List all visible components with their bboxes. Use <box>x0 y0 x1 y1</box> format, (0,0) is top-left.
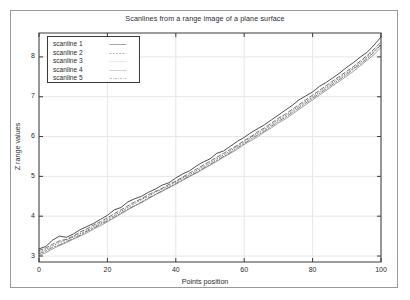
legend-item-5[interactable]: scanline 5 <box>48 74 139 83</box>
y-tick-label: 8 <box>24 52 35 59</box>
x-tick-label: 40 <box>161 266 191 273</box>
x-tick-label: 0 <box>24 266 54 273</box>
legend[interactable]: scanline 1scanline 2scanline 3scanline 4… <box>47 36 140 83</box>
legend-item-4[interactable]: scanline 4 <box>48 66 139 75</box>
legend-item-3[interactable]: scanline 3 <box>48 57 139 66</box>
chart-figure: Scanlines from a range image of a plane … <box>0 0 410 300</box>
x-tick-label: 80 <box>298 266 328 273</box>
x-tick-label: 20 <box>92 266 122 273</box>
y-tick-label: 3 <box>24 252 35 259</box>
y-tick-label: 7 <box>24 92 35 99</box>
x-tick-label: 100 <box>366 266 396 273</box>
legend-item-label: scanline 5 <box>53 74 83 81</box>
x-tick-label: 60 <box>229 266 259 273</box>
y-tick-label: 4 <box>24 212 35 219</box>
legend-item-label: scanline 3 <box>53 57 83 64</box>
y-axis-label: Z range values <box>13 102 22 192</box>
legend-item-2[interactable]: scanline 2 <box>48 49 139 58</box>
legend-line-sample <box>101 61 135 62</box>
legend-line-sample <box>101 78 135 79</box>
legend-item-1[interactable]: scanline 1 <box>48 40 139 49</box>
legend-line-sample <box>101 53 135 54</box>
legend-item-label: scanline 2 <box>53 49 83 56</box>
y-tick-label: 6 <box>24 132 35 139</box>
y-tick-label: 5 <box>24 172 35 179</box>
legend-item-label: scanline 4 <box>53 66 83 73</box>
x-axis-label: Points position <box>0 277 410 286</box>
legend-line-sample <box>101 44 135 45</box>
legend-line-sample <box>101 70 135 71</box>
legend-item-label: scanline 1 <box>53 40 83 47</box>
